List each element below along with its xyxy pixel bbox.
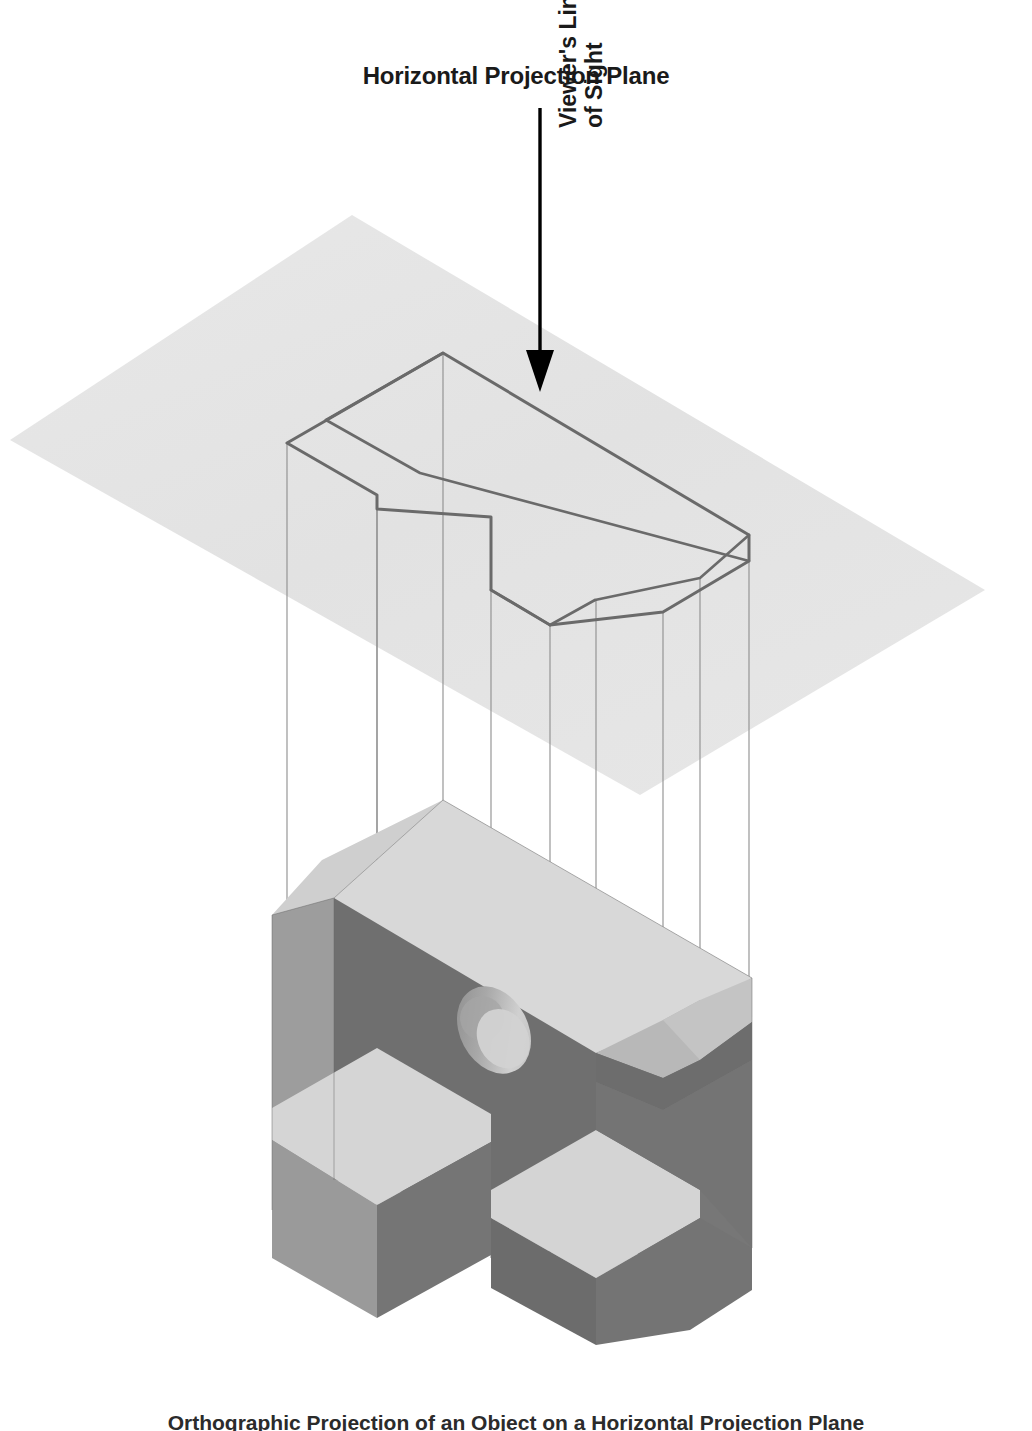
projection-diagram	[0, 0, 1032, 1431]
figure-canvas: Horizontal Projection Plane Viewer's Lin…	[0, 0, 1032, 1431]
horizontal-projection-plane	[10, 215, 985, 795]
projection-plane-surface	[10, 215, 985, 795]
solid-object	[272, 800, 752, 1345]
